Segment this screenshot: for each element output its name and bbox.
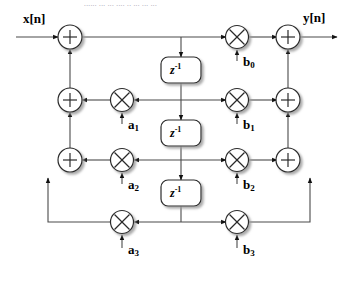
multiplier-a3 [111,211,134,234]
coefficient-label-a1: a1 [128,118,139,133]
multipliers-a-group [111,89,134,234]
coefficient-label-b2: b2 [243,178,255,193]
flow-graph-canvas [0,0,347,282]
coef-b0-sub: 0 [250,60,255,70]
coefficient-label-b3: b3 [243,243,255,258]
multiplier-b3 [226,211,249,234]
adders-left-group [58,25,82,172]
multiplier-a1 [111,89,134,112]
delay-1-exponent: -1 [175,62,182,71]
coefficient-label-b0: b0 [243,55,255,70]
coefficient-label-a3: a3 [128,243,139,258]
adder-right-3 [276,148,300,172]
adder-left-2 [58,88,82,112]
coef-b3-sub: 3 [250,248,255,258]
coefficient-label-a2: a2 [128,178,139,193]
adder-right-1 [276,25,300,49]
adders-right-group [276,25,300,172]
multiplier-b2 [226,149,249,172]
adder-left-1 [58,25,82,49]
adder-left-3 [58,148,82,172]
delay-3-exponent: -1 [175,185,182,194]
output-signal-label: y[n] [303,11,325,24]
coef-a1-sub: 1 [135,123,140,133]
multiplier-b0 [226,26,249,49]
coef-a2-sub: 2 [135,183,140,193]
coef-a3-sub: 3 [135,248,140,258]
input-signal-label: x[n] [23,12,45,25]
wire-a3-to-adder3 [48,178,111,222]
delay-2-label: z-1 [170,126,181,139]
coef-b2-sub: 2 [250,183,255,193]
coefficient-label-b1: b1 [243,118,255,133]
adder-right-2 [276,88,300,112]
delay-3-label: z-1 [170,186,181,199]
coef-b1-sub: 1 [250,123,255,133]
delay-1-label: z-1 [170,63,181,76]
wire-b3-to-adder3 [249,178,310,222]
multiplier-a2 [111,149,134,172]
multiplier-b1 [226,89,249,112]
delay-2-exponent: -1 [175,125,182,134]
signal-flow-diagram: ...... ... ... .... .. ... ... ... [0,0,347,282]
